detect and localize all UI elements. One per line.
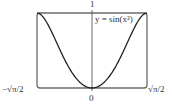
x-tick-left: −√π/2	[2, 85, 24, 94]
equation-label: y = sin(x²)	[95, 15, 133, 24]
plot-area	[0, 0, 172, 106]
x-tick-0: 0	[89, 94, 94, 103]
x-tick-right: √π/2	[148, 85, 164, 94]
y-tick-1: 1	[90, 0, 95, 9]
